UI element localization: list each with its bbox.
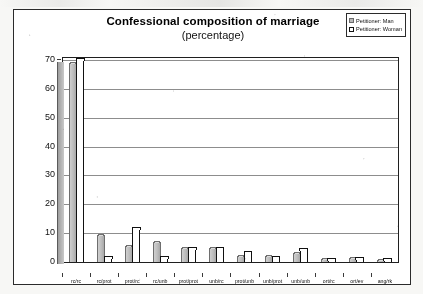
y-axis-tick-label: 30 <box>45 170 55 179</box>
x-axis-tick-mark <box>343 273 371 277</box>
x-axis-tick-label: ang/rk <box>371 278 399 285</box>
x-axis-tick-label: rc/rc <box>62 278 90 285</box>
y-axis-tick-label: 50 <box>45 112 55 121</box>
bar-group <box>314 58 342 262</box>
x-axis-tick-label: prot/rc <box>118 278 146 285</box>
bar-woman[interactable] <box>272 258 280 262</box>
x-axis-tick-label: prot/unb <box>230 278 258 285</box>
bar-woman[interactable] <box>76 60 84 262</box>
chart-legend: Petitioner: Man Petitioner: Woman <box>346 13 406 37</box>
bar-series-container <box>63 58 398 262</box>
y-axis-tick-label: 0 <box>50 257 55 266</box>
x-axis-labels: rc/rcrc/protprot/rcrc/unbprot/protunb/rc… <box>62 278 399 285</box>
plot-wrapper: 010203040506070 <box>39 57 401 273</box>
bar-woman[interactable] <box>188 249 196 262</box>
bar-group <box>203 58 231 262</box>
x-axis-tick-label: unb/unb <box>287 278 315 285</box>
bar-woman[interactable] <box>132 229 140 262</box>
x-axis-tick-label: unb/rc <box>202 278 230 285</box>
bar-group <box>119 58 147 262</box>
bar-woman[interactable] <box>104 258 112 262</box>
x-axis-tick-mark <box>174 273 202 277</box>
y-axis: 010203040506070 <box>39 57 59 263</box>
x-axis-tick-mark <box>259 273 287 277</box>
legend-item-man[interactable]: Petitioner: Man <box>349 17 402 25</box>
x-axis-tick-mark <box>118 273 146 277</box>
x-axis-tick-mark <box>287 273 315 277</box>
legend-swatch-icon-man <box>349 18 354 23</box>
x-axis-tick-label: rc/unb <box>146 278 174 285</box>
bar-group <box>147 58 175 262</box>
legend-swatch-icon-woman <box>349 27 354 32</box>
x-axis-tick-mark <box>315 273 343 277</box>
y-axis-tick-label: 40 <box>45 141 55 150</box>
bar-group <box>231 58 259 262</box>
bar-group <box>370 58 398 262</box>
scan-smudge <box>0 0 423 7</box>
x-axis-tick-mark <box>90 273 118 277</box>
x-axis-tick-label: prot/prot <box>174 278 202 285</box>
bar-woman[interactable] <box>160 258 168 262</box>
bar-group <box>342 58 370 262</box>
x-axis-tick-mark <box>230 273 258 277</box>
x-axis-tick-mark <box>62 273 90 277</box>
x-axis-tick-label: rc/prot <box>90 278 118 285</box>
bar-group <box>91 58 119 262</box>
x-axis-tick-label: ort/rc <box>315 278 343 285</box>
plot-area <box>62 57 399 263</box>
bar-group <box>286 58 314 262</box>
bar-woman[interactable] <box>356 259 364 262</box>
legend-label-woman: Petitioner: Woman <box>356 25 402 33</box>
bar-group <box>175 58 203 262</box>
legend-item-woman[interactable]: Petitioner: Woman <box>349 25 402 33</box>
y-axis-tick-label: 60 <box>45 83 55 92</box>
x-axis-ticks <box>62 273 399 277</box>
y-axis-tick-mark <box>57 59 61 60</box>
x-axis-tick-mark <box>371 273 399 277</box>
x-axis-tick-label: ort/ev <box>343 278 371 285</box>
bar-woman[interactable] <box>300 250 308 262</box>
legend-label-man: Petitioner: Man <box>356 17 394 25</box>
bar-group <box>258 58 286 262</box>
bar-woman[interactable] <box>244 253 252 262</box>
y-axis-tick-label: 70 <box>45 55 55 64</box>
bar-woman[interactable] <box>384 260 392 262</box>
x-axis-tick-mark <box>202 273 230 277</box>
x-axis-tick-mark <box>146 273 174 277</box>
bar-group <box>63 58 91 262</box>
x-axis-tick-label: unb/prot <box>259 278 287 285</box>
bar-woman[interactable] <box>216 249 224 262</box>
y-axis-tick-label: 20 <box>45 199 55 208</box>
chart-container: Confessional composition of marriage (pe… <box>13 9 411 285</box>
bar-woman[interactable] <box>328 260 336 262</box>
y-axis-tick-label: 10 <box>45 228 55 237</box>
